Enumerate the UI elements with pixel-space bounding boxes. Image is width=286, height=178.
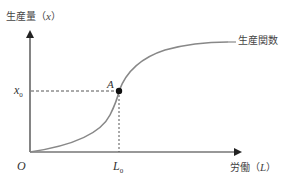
origin-label: O: [17, 160, 26, 172]
y-axis-label-text: 生産量: [6, 11, 36, 22]
point-a-label: A: [107, 79, 114, 90]
y-axis-label: 生産量（x）: [6, 11, 61, 22]
point-a-marker: [116, 88, 122, 94]
production-function-curve: [30, 42, 228, 152]
x-axis-label-text: 労働: [230, 162, 250, 173]
x-axis-label: 労働（L）: [230, 162, 276, 173]
production-function-label: 生産関数: [238, 36, 278, 46]
production-function-chart: [0, 0, 286, 178]
x0-label: x0: [14, 84, 23, 96]
L0-label: L0: [113, 160, 123, 172]
